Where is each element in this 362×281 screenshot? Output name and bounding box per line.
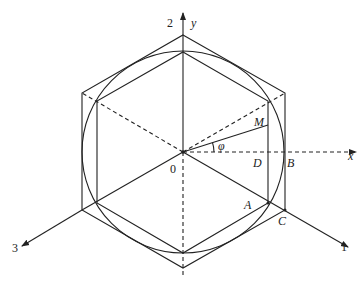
point-A-dot: [267, 202, 270, 205]
segment-OM: [183, 125, 268, 152]
hexagon-diagram: 2 y x 1 3 0 M φ D B A C: [0, 0, 362, 281]
axis-3: [22, 210, 82, 246]
diagram-canvas: 2 y x 1 3 0 M φ D B A C: [0, 0, 362, 281]
point-C-dot: [284, 209, 287, 212]
axis-3-label: 3: [12, 241, 18, 255]
dashed-upper-right: [183, 93, 285, 152]
axis-1-label: 1: [341, 240, 347, 254]
point-M-label: M: [253, 115, 265, 129]
angle-phi-label: φ: [218, 139, 225, 153]
x-label: x: [347, 149, 354, 163]
point-B-label: B: [287, 156, 295, 170]
axis-1: [183, 152, 348, 247]
origin-label: 0: [170, 162, 176, 176]
point-A-label: A: [243, 198, 252, 212]
point-D-label: D: [252, 156, 262, 170]
origin-dot: [181, 150, 185, 154]
angle-arc-phi: [213, 143, 215, 152]
y-label: y: [190, 16, 197, 30]
axis-2-label: 2: [167, 16, 173, 30]
point-C-label: C: [278, 214, 287, 228]
